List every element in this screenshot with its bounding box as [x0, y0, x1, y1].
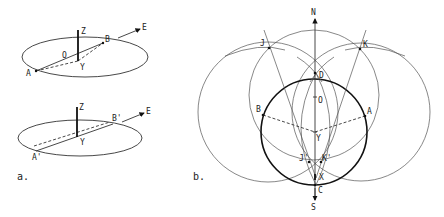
point-a — [364, 115, 367, 118]
label-b: B — [256, 105, 261, 114]
label-z: Z — [79, 103, 84, 112]
label-z: Z — [81, 27, 86, 36]
label-k: K — [363, 40, 368, 49]
panel-b-diagram: N J K D O B A Y J' K' X C S b. — [193, 8, 430, 212]
e-arrow — [118, 29, 140, 38]
point-c — [314, 184, 317, 187]
dashed-line-b-y — [263, 115, 315, 132]
point-k — [359, 48, 362, 51]
label-e: E — [146, 107, 151, 116]
point-b — [102, 42, 104, 44]
label-a-prime: A' — [32, 153, 42, 162]
label-j-prime: J' — [299, 154, 309, 163]
dashed-line-a-b — [34, 122, 110, 146]
label-o: O — [62, 51, 67, 60]
arc-at-k — [345, 47, 405, 56]
label-o: O — [318, 96, 323, 105]
line-a-b — [36, 43, 103, 71]
left-lens-arc — [301, 73, 316, 185]
panel-a-top-diagram: Z O B E A Y — [22, 23, 148, 78]
label-b-prime: B' — [112, 114, 122, 123]
label-y: Y — [316, 134, 321, 143]
point-d — [314, 72, 317, 75]
point-b — [262, 114, 265, 117]
panel-a-bottom-diagram: Z B' E A' Y a. — [17, 103, 151, 182]
label-j: J — [260, 39, 265, 48]
label-n: N — [311, 8, 316, 17]
label-y: Y — [80, 63, 85, 72]
panel-a-caption: a. — [17, 171, 29, 182]
geometry-figure: Z O B E A Y Z B' E A' Y a. — [0, 0, 444, 217]
label-k-prime: K' — [322, 154, 332, 163]
label-c: C — [318, 186, 323, 195]
label-b: B — [105, 35, 110, 44]
dashed-line-y-a — [315, 116, 365, 132]
label-y: Y — [80, 138, 85, 147]
label-e: E — [142, 23, 147, 32]
left-construction-circle — [198, 42, 338, 182]
label-d: D — [319, 71, 324, 80]
horizontal-plane-ellipse — [22, 37, 148, 77]
label-a: A — [367, 107, 372, 116]
arc-at-j — [225, 47, 285, 56]
label-a: A — [26, 69, 31, 78]
point-a — [35, 70, 37, 72]
label-s: S — [311, 203, 316, 212]
panel-b-caption: b. — [193, 171, 205, 182]
right-lens-arc — [316, 73, 330, 185]
line-a-b — [36, 124, 113, 151]
label-x: X — [319, 173, 324, 182]
e-arrow — [122, 113, 144, 122]
point-j — [268, 47, 271, 50]
